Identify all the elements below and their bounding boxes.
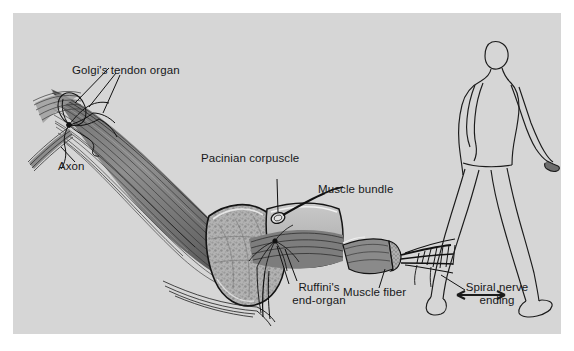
label-spiral-line1: Spiral nerve (466, 281, 529, 293)
label-muscle-fiber: Muscle fiber (343, 286, 406, 299)
label-axon: Axon (58, 160, 85, 173)
label-ruffini-line2: end-organ (292, 294, 345, 306)
muscle-fiber (343, 237, 401, 274)
illustration-canvas: Golgi's tendon organ Axon Pacinian corpu… (0, 0, 574, 351)
label-spiral-nerve-ending: Spiral nerve ending (454, 281, 540, 306)
spiral-nerve-ending (401, 239, 455, 287)
label-muscle-bundle: Muscle bundle (318, 183, 393, 196)
label-ruffini-line1: Ruffini's (298, 281, 339, 293)
illustration-panel: Golgi's tendon organ Axon Pacinian corpu… (13, 13, 561, 334)
label-golgi-tendon-organ: Golgi's tendon organ (72, 64, 180, 77)
lower-tendon-strands (257, 307, 275, 326)
exposed-bundle-surface (249, 230, 343, 269)
label-pacinian-corpuscle: Pacinian corpuscle (201, 152, 299, 165)
walking-human-figure (426, 42, 559, 317)
label-spiral-line2: ending (479, 294, 514, 306)
